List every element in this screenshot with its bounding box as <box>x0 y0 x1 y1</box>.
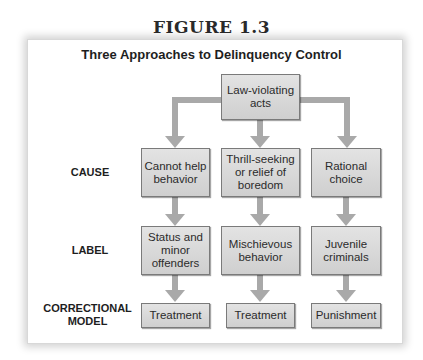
model-text: Treatment <box>235 309 287 322</box>
arrow-shaft <box>257 197 263 215</box>
model-box: Treatment <box>141 303 210 328</box>
row-label-model-line1: CORRECTIONAL <box>40 302 135 315</box>
arrow-shaft <box>257 275 263 291</box>
label-box: Mischievous behavior <box>221 226 300 275</box>
row-label-label: LABEL <box>60 244 120 257</box>
row-label-model-line2: MODEL <box>40 315 135 328</box>
label-text: Mischievous behavior <box>224 238 297 264</box>
cause-text: Cannot help behavior <box>144 160 207 186</box>
cause-text: Thrill-seeking or relief of boredom <box>224 153 297 192</box>
row-label-cause: CAUSE <box>60 166 120 179</box>
model-text: Punishment <box>316 309 377 322</box>
cause-text: Rational choice <box>314 160 378 186</box>
arrow-shaft <box>343 197 349 215</box>
cause-box: Rational choice <box>311 148 381 197</box>
arrow-head-icon <box>336 214 356 226</box>
connector-right-down <box>344 97 350 137</box>
root-box: Law-violating acts <box>221 74 300 120</box>
connector-center-down <box>257 118 263 137</box>
row-label-model: CORRECTIONAL MODEL <box>40 302 135 328</box>
label-text: Juvenile criminals <box>314 238 378 264</box>
arrow-head-icon <box>336 290 356 302</box>
cause-box: Thrill-seeking or relief of boredom <box>221 148 300 197</box>
label-text: Status and minor offenders <box>144 231 207 270</box>
arrow-head-icon <box>337 136 357 148</box>
arrow-head-icon <box>250 136 270 148</box>
model-box: Punishment <box>311 303 381 328</box>
connector-left-down <box>172 97 178 137</box>
label-box: Status and minor offenders <box>141 226 210 275</box>
figure-title: Three Approaches to Delinquency Control <box>0 47 423 62</box>
arrow-head-icon <box>165 136 185 148</box>
model-box: Treatment <box>226 303 295 328</box>
arrow-head-icon <box>250 290 270 302</box>
arrow-head-icon <box>250 214 270 226</box>
figure-number: FIGURE 1.3 <box>0 17 423 37</box>
arrow-head-icon <box>165 290 185 302</box>
root-label: Law-violating acts <box>224 84 297 110</box>
label-box: Juvenile criminals <box>311 226 381 275</box>
model-text: Treatment <box>150 309 202 322</box>
arrow-shaft <box>172 197 178 215</box>
arrow-head-icon <box>165 214 185 226</box>
arrow-shaft <box>343 275 349 291</box>
cause-box: Cannot help behavior <box>141 148 210 197</box>
arrow-shaft <box>172 275 178 291</box>
